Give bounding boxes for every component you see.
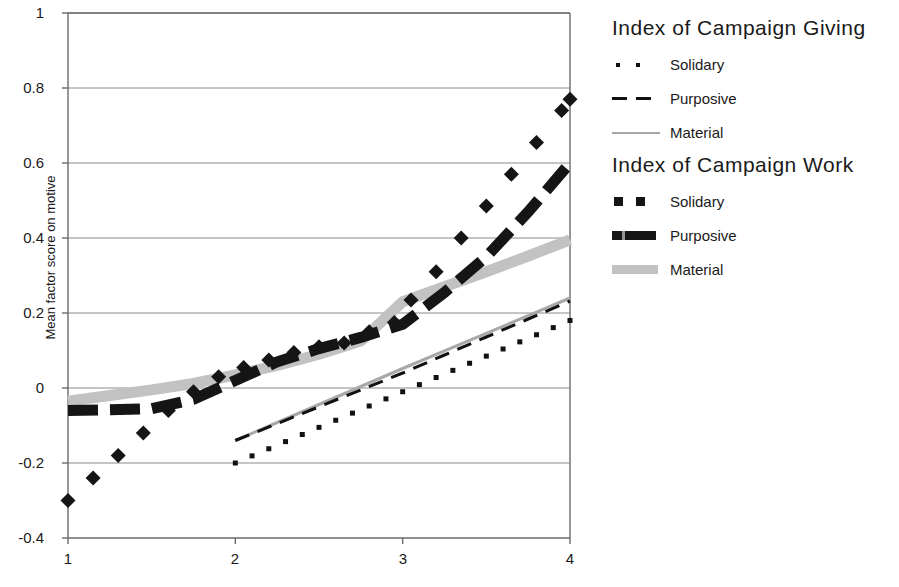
y-tick-label: 0	[0, 379, 44, 396]
data-marker	[551, 325, 556, 330]
y-tick-label: -0.2	[0, 454, 44, 471]
data-marker	[367, 404, 372, 409]
legend-item-label: Purposive	[670, 227, 737, 244]
data-marker	[450, 368, 455, 373]
legend-group-title-work: Index of Campaign Work	[612, 153, 899, 177]
y-tick-label: 0.6	[0, 154, 44, 171]
x-tick-label: 3	[383, 550, 423, 567]
data-marker	[484, 354, 489, 359]
data-marker	[61, 493, 76, 508]
data-marker	[554, 103, 569, 118]
data-marker	[479, 199, 494, 214]
data-marker	[383, 396, 388, 401]
legend-item-giving-purposive[interactable]: Purposive	[610, 81, 899, 115]
data-marker	[283, 439, 288, 444]
data-marker	[86, 471, 101, 486]
series-thick-solid	[68, 240, 570, 401]
data-marker	[504, 167, 519, 182]
chart-figure: 1 0.8 0.6 0.4 0.2 0 -0.2 -0.4 1 2 3 4 Me…	[0, 0, 899, 587]
data-marker	[333, 418, 338, 423]
data-marker	[350, 411, 355, 416]
data-marker	[568, 318, 573, 323]
legend-swatch-solid-icon	[610, 124, 664, 140]
series-line	[68, 163, 570, 411]
data-marker	[563, 92, 578, 107]
x-tick-label: 2	[215, 550, 255, 567]
data-marker	[529, 135, 544, 150]
legend: Index of Campaign Giving Solidary Purpos…	[610, 16, 899, 286]
legend-item-label: Material	[670, 124, 723, 141]
x-tick-label: 4	[550, 550, 590, 567]
x-tick-label: 1	[48, 550, 88, 567]
y-tick-label: 0.2	[0, 304, 44, 321]
legend-item-label: Solidary	[670, 56, 724, 73]
data-marker	[136, 426, 151, 441]
data-marker	[400, 389, 405, 394]
data-marker	[300, 432, 305, 437]
y-tick-label: 0.8	[0, 79, 44, 96]
y-tick-label: 0.4	[0, 229, 44, 246]
legend-swatch-square-marker-icon	[610, 193, 664, 209]
series-thick-dashed	[68, 163, 570, 411]
data-marker	[501, 347, 506, 352]
legend-item-label: Purposive	[670, 90, 737, 107]
data-marker	[266, 446, 271, 451]
legend-item-work-purposive[interactable]: Purposive	[610, 218, 899, 252]
data-marker	[111, 448, 126, 463]
data-marker	[467, 361, 472, 366]
series-thick-square-marker	[61, 92, 578, 508]
legend-item-work-solidary[interactable]: Solidary	[610, 184, 899, 218]
y-axis-title: Mean factor score on motive	[43, 138, 58, 378]
legend-swatch-dotted-icon	[610, 56, 664, 72]
data-marker	[454, 231, 469, 246]
data-marker	[250, 453, 255, 458]
plot-frame	[62, 13, 570, 544]
data-marker	[434, 375, 439, 380]
legend-item-giving-material[interactable]: Material	[610, 115, 899, 149]
data-marker	[417, 382, 422, 387]
legend-swatch-thick-dashed-icon	[610, 227, 664, 243]
legend-item-label: Material	[670, 261, 723, 278]
legend-item-work-material[interactable]: Material	[610, 252, 899, 286]
data-marker	[429, 264, 444, 279]
y-tick-label: -0.4	[0, 529, 44, 546]
legend-group-title-giving: Index of Campaign Giving	[612, 16, 899, 40]
legend-item-label: Solidary	[670, 193, 724, 210]
data-marker	[317, 425, 322, 430]
data-marker	[233, 461, 238, 466]
legend-item-giving-solidary[interactable]: Solidary	[610, 47, 899, 81]
data-marker	[517, 339, 522, 344]
series-line	[68, 240, 570, 401]
series-layer	[61, 92, 578, 508]
series-thin-dotted	[233, 318, 573, 466]
legend-swatch-thick-solid-icon	[610, 261, 664, 277]
data-marker	[534, 332, 539, 337]
y-tick-label: 1	[0, 4, 44, 21]
legend-swatch-dashed-icon	[610, 90, 664, 106]
